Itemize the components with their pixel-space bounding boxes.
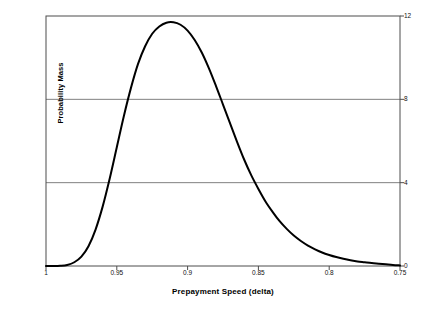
x-tick-label: 0.75 (380, 269, 420, 276)
y-tick-label: 8 (404, 95, 424, 102)
x-tick-label: 0.85 (238, 269, 278, 276)
plot-frame (46, 16, 400, 266)
x-tick-label: 0.8 (309, 269, 349, 276)
y-axis-title: Probability Mass (54, 38, 68, 148)
y-tick-marks (400, 16, 404, 266)
grid-layer (46, 99, 400, 182)
density-curve (46, 22, 400, 266)
x-tick-label: 0.95 (97, 269, 137, 276)
y-tick-label: 4 (404, 179, 424, 186)
x-tick-label: 0.9 (168, 269, 208, 276)
axis-frame (46, 16, 400, 266)
x-axis-title: Prepayment Speed (delta) (46, 287, 400, 296)
y-tick-label: 0 (404, 262, 424, 269)
x-tick-label: 1 (26, 269, 66, 276)
data-layer (46, 22, 400, 266)
y-tick-label: 12 (404, 12, 424, 19)
chart-figure: Probability Mass Prepayment Speed (delta… (0, 0, 426, 310)
